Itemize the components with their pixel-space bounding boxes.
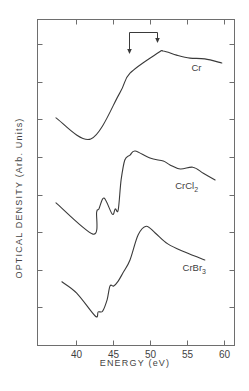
x-axis-ticks (77, 20, 225, 346)
series-label-crbr3: CrBr3 (183, 262, 207, 275)
arrow-down-icon (155, 38, 160, 43)
curve-crcl2 (56, 151, 215, 234)
arrow-down-icon (127, 49, 132, 54)
y-axis-label: OPTICAL DENSITY (Arb. Units) (14, 117, 24, 278)
x-tick-label: 40 (71, 349, 83, 360)
series-label-cr: Cr (191, 62, 201, 73)
curves (56, 50, 222, 316)
chart: 4045505560 CrCrCl2CrBr3 ENERGY (eV) OPTI… (0, 0, 249, 391)
x-tick-label: 55 (182, 349, 194, 360)
x-axis-label: ENERGY (eV) (100, 358, 171, 368)
series-label-crcl2: CrCl2 (175, 180, 198, 193)
x-tick-label: 60 (219, 349, 231, 360)
bracket-arrow-annotation (127, 33, 160, 55)
bracket-line (130, 33, 158, 51)
